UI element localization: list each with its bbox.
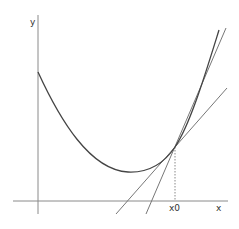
y-axis-label: y <box>30 17 36 27</box>
x0-label: x0 <box>169 203 180 213</box>
convex-curve <box>38 30 219 172</box>
x-axis-label: x <box>216 203 222 213</box>
diagram-canvas: y x x0 <box>0 0 239 229</box>
steeper-line <box>146 28 226 214</box>
